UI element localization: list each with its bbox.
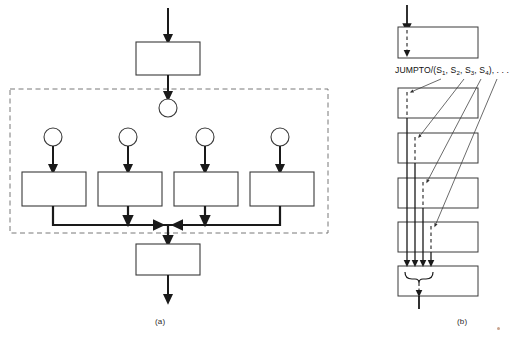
instruction-box-join — [398, 266, 478, 296]
panel-b-group — [398, 5, 497, 309]
join-path-left — [53, 206, 160, 225]
branch-node-circle-3 — [196, 128, 214, 146]
instruction-box-1 — [398, 27, 478, 58]
jumpto-sep-2: , S — [460, 65, 471, 75]
jumpto-sep-1: , S — [446, 65, 457, 75]
top-box-a — [136, 42, 200, 75]
fork-node-circle — [159, 99, 177, 117]
branch-box-3 — [174, 172, 238, 206]
instruction-box-4 — [398, 178, 478, 208]
caption-panel-b: (b) — [457, 317, 467, 326]
jumpto-sub-4: 4 — [485, 69, 489, 76]
jumpto-sub-2: 2 — [456, 69, 460, 76]
instruction-box-3 — [398, 133, 478, 163]
join-path-right — [176, 206, 280, 225]
jumpto-sub-3: 3 — [471, 69, 475, 76]
jumpto-suffix: ), . . . — [489, 65, 509, 75]
branch-node-circle-4 — [271, 128, 289, 146]
bottom-box-a — [136, 244, 200, 275]
jumpto-sep-3: , S — [474, 65, 485, 75]
branch-box-4 — [250, 172, 314, 206]
instruction-box-5 — [398, 222, 478, 252]
jumpto-sub-1: 1 — [442, 69, 446, 76]
branch-box-1 — [22, 172, 86, 206]
diagram-canvas — [0, 0, 528, 340]
instruction-box-2 — [398, 88, 478, 118]
panel-a-group — [10, 8, 328, 300]
scan-artifact-speck — [497, 327, 500, 330]
branch-box-2 — [98, 172, 162, 206]
branch-node-circle-2 — [119, 128, 137, 146]
jumpto-prefix: JUMPTO/(S — [395, 65, 442, 75]
figure-root: JUMPTO/(S1, S2, S3, S4), . . . (a) (b) — [0, 0, 528, 340]
jumpto-label: JUMPTO/(S1, S2, S3, S4), . . . — [395, 65, 509, 75]
caption-panel-a: (a) — [155, 317, 165, 326]
branch-node-circle-1 — [44, 128, 62, 146]
